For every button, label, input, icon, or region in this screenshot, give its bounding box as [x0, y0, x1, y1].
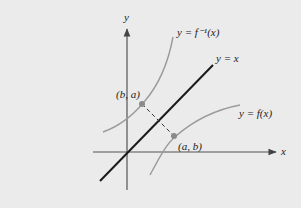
point-b-a — [139, 101, 145, 107]
inverse-function-diagram — [0, 0, 301, 208]
x-axis-label: x — [281, 146, 286, 157]
identity-line-label: y = x — [216, 53, 239, 64]
point-a-b-label: (a, b) — [178, 141, 202, 152]
point-a-b — [171, 133, 177, 139]
point-b-a-label: (b, a) — [116, 89, 140, 100]
inverse-curve-label: y = f⁻¹(x) — [177, 27, 219, 38]
function-curve-label: y = f(x) — [239, 108, 272, 119]
y-axis-label: y — [124, 12, 129, 23]
